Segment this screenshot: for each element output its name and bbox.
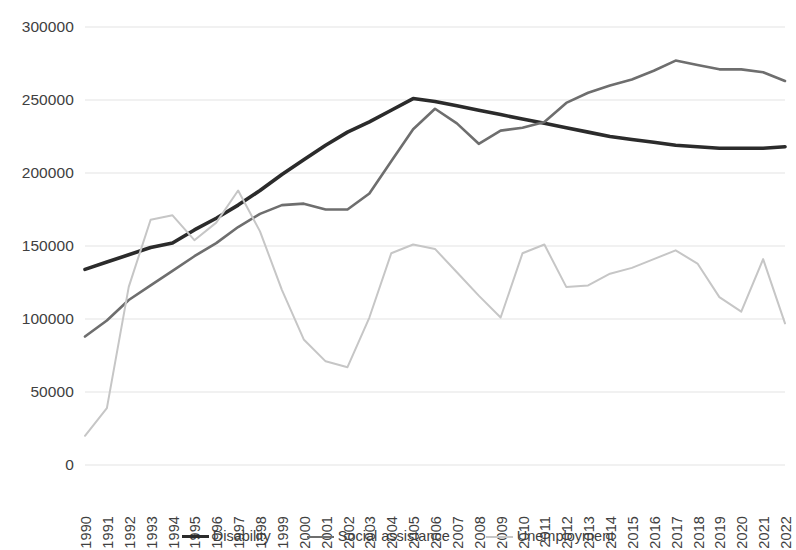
plot-area: [85, 27, 785, 465]
y-tick-label: 100000: [22, 311, 74, 327]
series-line-unemployment: [85, 191, 785, 436]
series-group: [85, 61, 785, 436]
y-tick-label: 200000: [22, 165, 74, 181]
y-tick-label: 250000: [22, 92, 74, 108]
x-axis: 1990199119921993199419951996199719981999…: [85, 470, 785, 522]
series-line-disability: [85, 99, 785, 270]
gridlines: [85, 27, 785, 465]
legend-item-disability[interactable]: Disability: [182, 529, 271, 544]
y-axis: 050000100000150000200000250000300000: [0, 0, 85, 480]
legend-label: Disability: [213, 529, 271, 544]
line-chart: 050000100000150000200000250000300000 199…: [0, 0, 796, 550]
legend-item-unemployment[interactable]: Unemployment: [486, 529, 615, 544]
y-tick-label: 50000: [30, 384, 74, 400]
y-tick-label: 150000: [22, 238, 74, 254]
y-tick-label: 300000: [22, 19, 74, 35]
plot-svg: [85, 27, 785, 465]
legend-swatch-icon: [307, 536, 334, 538]
legend-swatch-icon: [486, 536, 513, 538]
legend-item-social-assistance[interactable]: Social assistance: [307, 529, 450, 544]
chart-legend: DisabilitySocial assistanceUnemployment: [0, 523, 796, 550]
y-tick-label: 0: [65, 457, 74, 473]
legend-swatch-icon: [182, 535, 209, 538]
legend-label: Unemployment: [517, 529, 615, 544]
legend-label: Social assistance: [338, 529, 450, 544]
